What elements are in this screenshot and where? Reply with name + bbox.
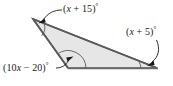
angle-label-top-operator: + (71, 3, 82, 14)
angle-label-right: (x + 5)° (126, 27, 156, 37)
angle-label-bottom-prefix: (10 (3, 62, 17, 73)
angle-label-top: (x + 15)° (63, 4, 98, 14)
angle-label-top-constant: 15) (82, 3, 96, 14)
leader-arrowhead-right (147, 60, 155, 66)
angle-label-right-degree: ° (153, 25, 156, 33)
angle-label-right-operator: + (134, 26, 145, 37)
angle-label-bottom-constant: 20) (32, 62, 46, 73)
angle-label-top-degree: ° (96, 2, 99, 10)
angle-label-bottom: (10x − 20)° (3, 63, 49, 73)
angle-label-bottom-degree: ° (46, 61, 49, 69)
leader-line-top (44, 10, 63, 20)
triangle-angle-figure: (x + 15)° (x + 5)° (10x − 20)° (0, 0, 173, 86)
leader-line-right (152, 40, 159, 62)
angle-label-bottom-operator: − (21, 62, 32, 73)
